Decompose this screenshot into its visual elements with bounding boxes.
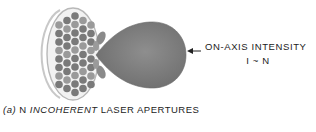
aperture-circle xyxy=(71,80,79,88)
aperture-circle xyxy=(79,59,87,67)
aperture-circle xyxy=(63,17,71,25)
aperture-circle xyxy=(63,68,71,76)
aperture-circle xyxy=(63,85,71,93)
aperture-circle xyxy=(55,38,63,46)
arrow-icon xyxy=(187,48,201,54)
aperture-circle xyxy=(79,85,87,93)
aperture-circle xyxy=(55,81,63,89)
aperture-circle xyxy=(63,42,71,50)
aperture-circle xyxy=(55,30,63,38)
aperture-circle xyxy=(71,89,79,97)
aperture-circle xyxy=(87,72,95,80)
aperture-circle xyxy=(87,21,95,29)
aperture-circle xyxy=(63,51,71,59)
aperture-circle xyxy=(71,63,79,71)
aperture-circle xyxy=(71,21,79,29)
aperture-circle xyxy=(79,17,87,25)
aperture-circle xyxy=(79,51,87,59)
aperture-circle xyxy=(71,29,79,37)
caption-rest: LASER APERTURES xyxy=(101,104,200,115)
aperture-circle xyxy=(55,47,63,55)
on-axis-intensity-label: ON-AXIS INTENSITY xyxy=(205,41,307,52)
aperture-circle xyxy=(63,59,71,67)
aperture-circle xyxy=(87,30,95,38)
aperture-circle xyxy=(71,12,79,20)
figure-caption: (a) N INCOHERENT LASER APERTURES xyxy=(3,104,199,115)
aperture-circle xyxy=(63,34,71,42)
caption-n: N xyxy=(19,104,26,115)
aperture-circle xyxy=(79,76,87,84)
aperture-circle xyxy=(63,25,71,33)
caption-prefix: (a) xyxy=(3,104,16,115)
aperture-circle xyxy=(79,25,87,33)
aperture-circle xyxy=(71,72,79,80)
aperture-circle xyxy=(87,81,95,89)
aperture-circle xyxy=(55,21,63,29)
aperture-circle xyxy=(55,55,63,63)
aperture-circle xyxy=(71,38,79,46)
aperture-circle xyxy=(79,42,87,50)
aperture-circle xyxy=(55,64,63,72)
laser-aperture-diagram: ON-AXIS INTENSITY I ~ N (a) N INCOHERENT… xyxy=(0,0,316,132)
main-lobe xyxy=(96,22,186,88)
caption-emphasis: INCOHERENT xyxy=(30,104,98,115)
aperture-circle xyxy=(71,55,79,63)
aperture-circle xyxy=(79,34,87,42)
intensity-relation: I ~ N xyxy=(238,55,278,66)
aperture-circle xyxy=(55,72,63,80)
aperture-circle xyxy=(79,68,87,76)
aperture-circle xyxy=(71,46,79,54)
aperture-circle xyxy=(63,76,71,84)
